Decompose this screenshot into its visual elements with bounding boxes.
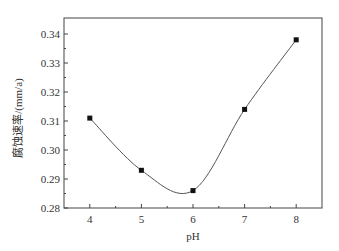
- y-tick-label: 0.31: [41, 115, 60, 127]
- y-axis-title: 腐蚀速率/(mm/a): [11, 78, 25, 158]
- x-tick-label: 4: [87, 213, 93, 225]
- y-tick-label: 0.34: [41, 28, 61, 40]
- chart: 0.280.290.300.310.320.330.34 45678 pH 腐蚀…: [0, 0, 339, 251]
- x-axis-title: pH: [186, 230, 200, 242]
- x-axis: 45678: [87, 204, 299, 225]
- y-tick-label: 0.30: [41, 144, 61, 156]
- plot-frame: [64, 18, 322, 208]
- data-curve: [90, 40, 296, 194]
- data-point-marker: [139, 168, 144, 173]
- y-tick-label: 0.29: [41, 173, 61, 185]
- data-point-marker: [191, 188, 196, 193]
- x-tick-label: 6: [190, 213, 196, 225]
- x-tick-label: 8: [293, 213, 299, 225]
- y-tick-label: 0.28: [41, 202, 61, 214]
- data-point-marker: [87, 116, 92, 121]
- x-tick-label: 5: [139, 213, 145, 225]
- data-point-marker: [294, 37, 299, 42]
- y-tick-label: 0.32: [41, 86, 60, 98]
- y-tick-label: 0.33: [41, 57, 61, 69]
- data-markers: [87, 37, 298, 193]
- data-point-marker: [242, 107, 247, 112]
- x-tick-label: 7: [242, 213, 248, 225]
